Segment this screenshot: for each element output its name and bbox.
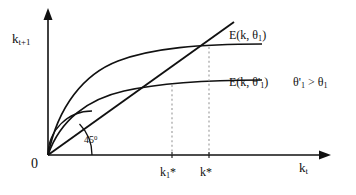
curve-high-theta-label: E(k, θ1): [229, 29, 266, 43]
inequality-annotation: θ'1 > θ1: [293, 76, 328, 90]
inequality-operator: >: [305, 75, 318, 89]
angle-label-degree: 0: [94, 134, 97, 141]
curve-low-theta-label: E(k, θ'1): [229, 76, 268, 90]
tick-label-k1-star-star: *: [170, 165, 176, 179]
curve-low-theta-label-suffix: ): [264, 75, 268, 89]
origin-label: 0: [31, 157, 38, 171]
tick-label-k-star: k*: [200, 166, 212, 178]
x-axis: [48, 151, 331, 160]
tick-label-k1-star: k1*: [160, 166, 176, 180]
curve-high-theta-label-prefix: E(k,: [229, 28, 252, 42]
inequality-right-subscript: 1: [324, 81, 328, 90]
inequality-left-theta: θ': [293, 75, 301, 89]
curve-high-theta: [48, 44, 262, 155]
y-axis-label-subscript: t+1: [19, 37, 31, 47]
curve-low-theta: [48, 80, 262, 155]
growth-model-diagram: kt+1 kt 0 450 E(k, θ1) E(k, θ'1) θ'1 > θ…: [0, 0, 356, 195]
y-axis-label: kt+1: [12, 32, 30, 47]
angle-label-value: 45: [84, 134, 94, 145]
y-axis: [44, 8, 53, 155]
curve-low-theta-label-prefix: E(k,: [229, 75, 252, 89]
x-axis-label: kt: [299, 161, 308, 176]
angle-label: 450: [84, 135, 97, 145]
tick-label-k-star-star: *: [206, 165, 212, 179]
x-axis-label-subscript: t: [306, 166, 308, 176]
curve-high-theta-label-suffix: ): [262, 28, 266, 42]
